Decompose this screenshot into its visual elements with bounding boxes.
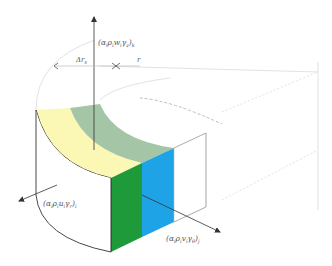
label-right-flux: (αiρiviγθ)j <box>166 234 200 245</box>
control-volume-diagram: (αiρiwiγz)k Δrs r (αiρiuiγr)i (αiρiviγθ)… <box>0 0 332 266</box>
label-delta-rs: Δrs <box>75 56 87 65</box>
label-top-flux: (αiρiwiγz)k <box>98 38 135 48</box>
face-green <box>111 163 142 252</box>
label-r: r <box>137 56 141 64</box>
label-left-flux: (αiρiuiγr)i <box>43 199 77 209</box>
face-blue <box>142 148 174 237</box>
back-edge-dashed <box>140 98 222 124</box>
face-white <box>174 133 206 222</box>
delta-rs-dimension <box>54 63 140 69</box>
